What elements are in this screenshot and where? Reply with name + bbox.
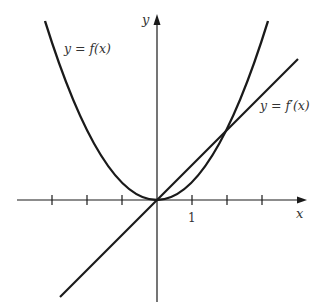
y-axis-arrow-icon [154,14,161,25]
x-axis-arrow-icon [297,197,307,204]
x-axis-label: x [296,206,304,221]
curve-f-prime [60,59,298,297]
curve-f-label: y = f(x) [63,41,111,56]
curve-f-prime-label: y = f′(x) [259,98,310,113]
y-axis-label: y [141,12,150,27]
graph-figure: y x 1 y = f(x) y = f′(x) [0,0,326,302]
tick-label-1: 1 [188,211,196,225]
